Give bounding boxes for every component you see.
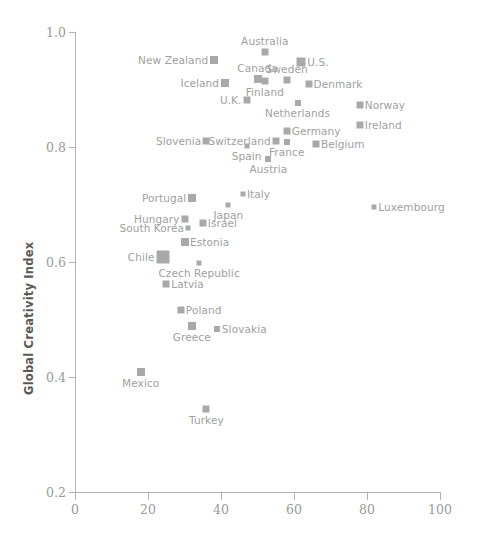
point-label: Luxembourg	[378, 201, 444, 213]
point-label: Netherlands	[265, 107, 330, 119]
point-marker	[272, 137, 279, 144]
point-marker	[244, 144, 249, 149]
point-label: Austria	[250, 163, 288, 175]
point-marker	[137, 368, 145, 376]
point-marker	[199, 219, 206, 226]
point-marker	[265, 156, 271, 162]
point-marker	[186, 226, 191, 231]
x-tick-label: 80	[359, 502, 375, 517]
y-tick-label: 1.0	[46, 25, 66, 40]
x-tick-mark	[148, 493, 149, 500]
x-axis-line	[75, 492, 441, 493]
point-label: Mexico	[122, 377, 159, 389]
point-marker	[197, 261, 202, 266]
point-label: Australia	[241, 35, 288, 47]
point-label: Chile	[128, 251, 155, 263]
x-tick-mark	[440, 493, 441, 500]
point-label: Finland	[246, 86, 284, 98]
point-marker	[261, 78, 268, 85]
point-label: Estonia	[190, 236, 229, 248]
point-marker	[295, 100, 301, 106]
point-marker	[221, 79, 229, 87]
y-tick-mark	[69, 377, 76, 378]
y-tick-mark	[69, 262, 76, 263]
point-marker	[214, 326, 220, 332]
point-marker	[188, 322, 196, 330]
point-marker	[226, 203, 231, 208]
point-label: Italy	[247, 188, 270, 200]
y-tick-label: 0.8	[46, 140, 66, 155]
x-tick-label: 40	[213, 502, 229, 517]
point-label: Slovenia	[156, 135, 202, 147]
point-label: Latvia	[171, 278, 204, 290]
x-tick-label: 100	[428, 502, 452, 517]
point-label: Turkey	[189, 414, 224, 426]
point-label: New Zealand	[138, 54, 208, 66]
y-tick-label: 0.6	[46, 255, 66, 270]
point-marker	[177, 307, 184, 314]
point-label: Poland	[186, 304, 222, 316]
point-label: Denmark	[314, 78, 363, 90]
x-tick-label: 0	[71, 502, 79, 517]
x-tick-mark	[294, 493, 295, 500]
x-tick-label: 60	[286, 502, 302, 517]
point-label: Iceland	[180, 77, 219, 89]
point-marker	[240, 191, 245, 196]
point-label: Ireland	[365, 119, 402, 131]
x-tick-mark	[75, 493, 76, 500]
point-marker	[284, 139, 290, 145]
scatter-chart: Global Creativity Index 1.00.80.60.40.20…	[0, 0, 477, 545]
x-tick-mark	[367, 493, 368, 500]
x-tick-label: 20	[140, 502, 156, 517]
point-marker	[261, 49, 268, 56]
point-marker	[372, 205, 377, 210]
point-label: Sweden	[266, 63, 308, 75]
point-label: U.K.	[220, 94, 242, 106]
point-label: U.S.	[307, 56, 328, 68]
point-marker	[181, 238, 189, 246]
point-marker	[243, 97, 250, 104]
y-tick-mark	[69, 147, 76, 148]
point-marker	[163, 280, 170, 287]
point-marker	[305, 81, 312, 88]
point-marker	[210, 56, 218, 64]
point-label: Norway	[365, 99, 405, 111]
point-label: Portugal	[142, 192, 186, 204]
point-marker	[188, 194, 196, 202]
point-marker	[203, 405, 210, 412]
point-label: France	[269, 146, 305, 158]
point-marker	[312, 141, 319, 148]
point-label: South Korea	[119, 222, 184, 234]
y-tick-mark	[69, 32, 76, 33]
y-tick-label: 0.2	[46, 485, 66, 500]
point-marker	[356, 121, 363, 128]
point-label: Greece	[173, 331, 211, 343]
point-marker	[356, 102, 363, 109]
point-marker	[254, 75, 262, 83]
point-label: Switzerland	[208, 135, 270, 147]
point-label: Slovakia	[222, 323, 267, 335]
point-label: Germany	[292, 125, 341, 137]
point-marker	[156, 250, 169, 263]
point-label: Israel	[208, 217, 237, 229]
y-tick-label: 0.4	[46, 370, 66, 385]
x-tick-mark	[221, 493, 222, 500]
point-marker	[283, 127, 290, 134]
point-marker	[283, 77, 290, 84]
point-label: Belgium	[321, 138, 365, 150]
y-axis-title: Global Creativity Index	[22, 95, 36, 395]
point-label: Spain	[232, 150, 262, 162]
